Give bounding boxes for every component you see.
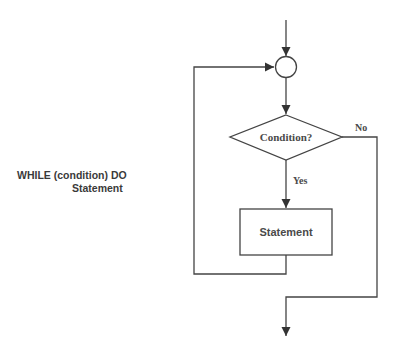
statement-label: Statement (259, 226, 313, 238)
no-label: No (355, 122, 367, 133)
yes-label: Yes (293, 175, 308, 186)
decision-label: Condition? (260, 131, 313, 143)
while-loop-flowchart: Condition? Yes Statement No (0, 0, 393, 356)
junction-circle (276, 57, 297, 78)
